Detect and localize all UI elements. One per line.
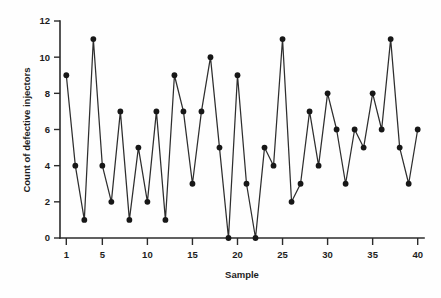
data-point-marker	[145, 199, 151, 205]
data-point-marker	[343, 181, 349, 187]
data-point-marker	[108, 199, 114, 205]
x-axis-title: Sample	[225, 269, 259, 280]
series-marker-group	[63, 36, 420, 241]
y-tick-label: 0	[45, 232, 50, 243]
data-point-marker	[280, 36, 286, 42]
data-point-marker	[208, 54, 214, 60]
chart-canvas: 024681012 Count of defective injectors 1…	[0, 0, 441, 298]
data-point-marker	[199, 109, 205, 115]
y-axis-group: 024681012 Count of defective injectors	[21, 15, 60, 243]
data-point-marker	[235, 72, 241, 78]
x-tick-label: 1	[64, 249, 70, 260]
data-point-marker	[253, 235, 259, 241]
y-tick-label: 6	[45, 124, 50, 135]
data-point-marker	[307, 109, 313, 115]
x-tick-label: 40	[412, 249, 423, 260]
data-point-marker	[99, 163, 105, 169]
y-tick-label: 10	[39, 52, 50, 63]
data-point-marker	[370, 90, 376, 96]
data-point-marker	[316, 163, 322, 169]
data-point-marker	[379, 127, 385, 133]
data-point-marker	[126, 217, 132, 223]
chart-figure: 024681012 Count of defective injectors 1…	[0, 0, 441, 298]
data-point-marker	[325, 90, 331, 96]
data-point-marker	[244, 181, 250, 187]
data-point-marker	[154, 109, 160, 115]
y-tick-group: 024681012	[39, 15, 60, 243]
data-point-marker	[90, 36, 96, 42]
x-axis-group: 1510152025303540 Sample	[60, 238, 424, 280]
data-point-marker	[81, 217, 87, 223]
data-point-marker	[217, 145, 223, 151]
x-tick-label: 20	[232, 249, 243, 260]
data-point-marker	[334, 127, 340, 133]
data-point-marker	[271, 163, 277, 169]
data-point-marker	[72, 163, 78, 169]
data-point-marker	[361, 145, 367, 151]
data-point-marker	[172, 72, 178, 78]
data-point-marker	[406, 181, 412, 187]
data-point-marker	[181, 109, 187, 115]
data-point-marker	[397, 145, 403, 151]
data-point-marker	[190, 181, 196, 187]
plot-area	[63, 36, 420, 241]
x-tick-label: 25	[277, 249, 288, 260]
x-tick-group: 1510152025303540	[64, 238, 423, 260]
data-point-marker	[415, 127, 421, 133]
data-point-marker	[352, 127, 358, 133]
y-tick-label: 12	[39, 15, 50, 26]
x-tick-label: 10	[142, 249, 153, 260]
data-point-marker	[226, 235, 232, 241]
data-point-marker	[289, 199, 295, 205]
data-point-marker	[117, 109, 123, 115]
x-tick-label: 30	[322, 249, 333, 260]
data-point-marker	[262, 145, 268, 151]
x-tick-label: 15	[187, 249, 198, 260]
y-axis-title: Count of defective injectors	[21, 67, 32, 192]
data-point-marker	[135, 145, 141, 151]
y-tick-label: 2	[45, 196, 50, 207]
x-tick-label: 35	[367, 249, 378, 260]
y-tick-label: 4	[45, 160, 51, 171]
data-point-marker	[388, 36, 394, 42]
series-line-defective-injectors	[66, 39, 417, 238]
x-tick-label: 5	[100, 249, 106, 260]
data-point-marker	[163, 217, 169, 223]
data-point-marker	[298, 181, 304, 187]
y-tick-label: 8	[45, 88, 50, 99]
data-point-marker	[63, 72, 69, 78]
